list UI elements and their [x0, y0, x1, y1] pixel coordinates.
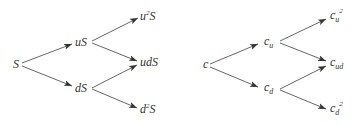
option-value-tree: c cu cd cu2 cud cd2	[203, 7, 344, 117]
node-cu: cu	[264, 34, 273, 50]
edge-us-to-uus	[92, 18, 138, 41]
node-cuu: cu2	[330, 7, 343, 24]
node-cuu-sub: u	[335, 15, 339, 24]
edge-s-to-us	[22, 44, 72, 63]
node-cdd-sup: 2	[339, 100, 343, 108]
edge-s-to-ds	[22, 66, 72, 86]
node-uus: u2S	[140, 9, 156, 23]
edge-cu-to-cud	[280, 43, 326, 61]
edge-c-to-cd	[210, 67, 258, 87]
node-us: uS	[75, 35, 87, 49]
edge-cd-to-cud	[280, 66, 326, 89]
node-c: c	[203, 57, 209, 71]
node-dds: d2S	[140, 102, 156, 116]
node-cd-sub: d	[269, 87, 274, 96]
edge-cu-to-cuu	[280, 19, 326, 41]
node-cdd-sub: d	[335, 108, 340, 117]
edge-c-to-cu	[210, 44, 258, 64]
edge-us-to-uds	[92, 43, 137, 61]
node-uds: udS	[140, 55, 158, 69]
stock-price-tree: S uS dS u2S udS d2S	[13, 9, 158, 116]
node-cud: cud	[330, 55, 344, 71]
node-cdd: cd2	[330, 100, 343, 117]
node-cud-sub: ud	[335, 62, 344, 71]
node-cu-sub: u	[269, 41, 273, 50]
edge-cd-to-cdd	[280, 90, 326, 109]
edge-ds-to-uds	[92, 65, 137, 88]
node-cuu-sup: 2	[339, 7, 343, 15]
edge-ds-to-dds	[92, 89, 137, 108]
binomial-tree-diagram: S uS dS u2S udS d2S c cu cd cu2 cud cd2	[0, 0, 353, 125]
node-s: S	[13, 57, 19, 71]
node-cd: cd	[264, 80, 274, 96]
node-ds: dS	[75, 81, 87, 95]
node-uus-tail: S	[150, 9, 156, 23]
node-dds-tail: S	[150, 102, 156, 116]
